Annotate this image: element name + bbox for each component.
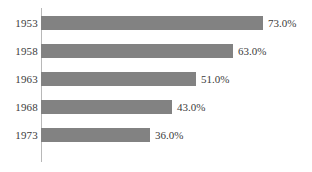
bar-row: 195373.0% (0, 16, 312, 30)
bar-row: 195863.0% (0, 44, 312, 58)
bar-value-label: 43.0% (177, 98, 205, 116)
bar-value-label: 73.0% (268, 14, 296, 32)
category-label: 1963 (0, 70, 38, 88)
bars-layer: 195373.0%195863.0%196351.0%196843.0%1973… (0, 0, 312, 172)
bar-value-label: 63.0% (238, 42, 266, 60)
bar-row: 197336.0% (0, 128, 312, 142)
category-label: 1968 (0, 98, 38, 116)
bar-row: 196351.0% (0, 72, 312, 86)
bar (41, 16, 263, 30)
bar (41, 128, 150, 142)
bar (41, 44, 233, 58)
category-label: 1958 (0, 42, 38, 60)
bar-value-label: 51.0% (201, 70, 229, 88)
category-label: 1973 (0, 126, 38, 144)
bar-row: 196843.0% (0, 100, 312, 114)
category-label: 1953 (0, 14, 38, 32)
bar-value-label: 36.0% (155, 126, 183, 144)
bar (41, 72, 196, 86)
bar (41, 100, 172, 114)
bar-chart: 195373.0%195863.0%196351.0%196843.0%1973… (0, 0, 312, 172)
